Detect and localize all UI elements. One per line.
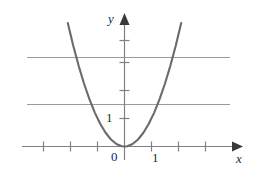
origin-label: 0	[111, 150, 118, 163]
horizontal-gridlines	[27, 58, 230, 105]
y-tick-label-one: 1	[106, 111, 113, 124]
parabola-plot-area	[0, 0, 256, 176]
y-axis	[120, 13, 130, 160]
x-tick-label-one: 1	[152, 151, 159, 164]
x-axis-arrowhead	[232, 142, 243, 152]
x-axis-label: x	[236, 152, 242, 165]
parabola-figure: y x 0 1 1	[0, 0, 256, 176]
y-axis-label: y	[108, 12, 114, 25]
y-axis-arrowhead	[120, 13, 130, 25]
